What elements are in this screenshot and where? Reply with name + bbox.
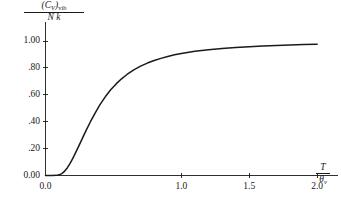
x-axis-tick-label: 1.0 bbox=[165, 181, 197, 191]
chart-figure: (CV)vib N k T θv 0.00.20.40.60.801.00 0.… bbox=[0, 0, 341, 205]
chart-tick-marks bbox=[43, 41, 317, 178]
y-axis-label-numerator: (CV)vib bbox=[24, 1, 84, 11]
y-axis-tick-label: .60 bbox=[6, 89, 40, 99]
x-axis-tick-label: 2.0 bbox=[301, 181, 333, 191]
y-axis-label-denominator: N k bbox=[24, 13, 84, 23]
y-axis-tick-label: .40 bbox=[6, 116, 40, 126]
x-axis-label-numerator: T bbox=[308, 163, 338, 173]
x-axis-tick-label: 0.0 bbox=[30, 181, 62, 191]
y-axis-tick-label: .80 bbox=[6, 62, 40, 72]
y-axis-tick-label: 1.00 bbox=[6, 35, 40, 45]
chart-data-line bbox=[46, 44, 318, 175]
y-axis-tick-label: .20 bbox=[6, 143, 40, 153]
x-axis-tick-label: 1.5 bbox=[233, 181, 265, 191]
chart-plot-area bbox=[0, 0, 341, 205]
y-axis-tick-label: 0.00 bbox=[6, 170, 40, 180]
y-axis-label: (CV)vib N k bbox=[24, 1, 84, 23]
